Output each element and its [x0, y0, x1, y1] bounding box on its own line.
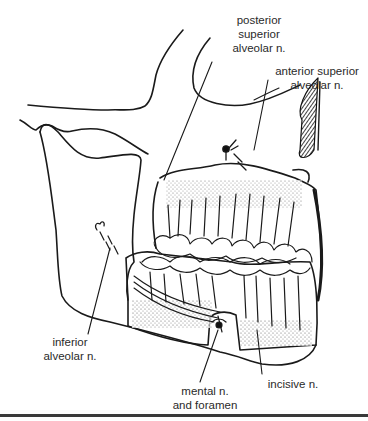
maxilla-bone-fill	[166, 180, 302, 208]
zygomatic-arch	[20, 120, 148, 154]
chin-bone-fill	[240, 320, 312, 346]
mandibular-foramen-symbol	[96, 222, 118, 254]
label-incisive-nerve: incisive n.	[258, 377, 328, 391]
label-line: mental n.	[170, 384, 240, 398]
label-line: alveolar n.	[229, 41, 289, 55]
label-line: alveolar n.	[262, 78, 368, 92]
label-anterior-superior-alveolar-nerve: anterior superior alveolar n.	[262, 64, 368, 92]
leader-posterior-superior	[164, 62, 212, 180]
label-mental-nerve-and-foramen: mental n. and foramen	[170, 384, 240, 412]
label-line: alveolar n.	[30, 349, 110, 363]
label-line: incisive n.	[258, 377, 328, 391]
label-line: posterior	[229, 13, 289, 27]
bottom-divider	[0, 414, 368, 417]
infraorbital-nerve-symbol	[223, 140, 246, 170]
label-inferior-alveolar-nerve: inferior alveolar n.	[30, 335, 110, 363]
label-posterior-superior-alveolar-nerve: posterior superior alveolar n.	[229, 13, 289, 55]
mental-foramen-symbol	[212, 316, 226, 332]
label-line: anterior superior	[262, 64, 368, 78]
label-line: inferior	[30, 335, 110, 349]
label-line: and foramen	[170, 398, 240, 412]
mandible-ramus	[40, 125, 141, 301]
skull-outline-upper	[28, 30, 183, 110]
label-line: superior	[229, 27, 289, 41]
